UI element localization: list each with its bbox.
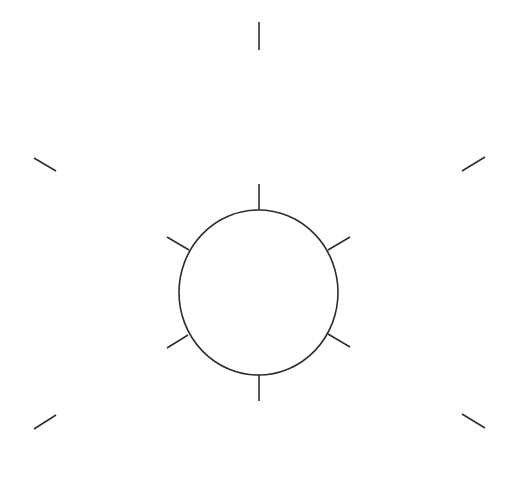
diagram-canvas [0, 0, 512, 493]
background [0, 0, 512, 493]
